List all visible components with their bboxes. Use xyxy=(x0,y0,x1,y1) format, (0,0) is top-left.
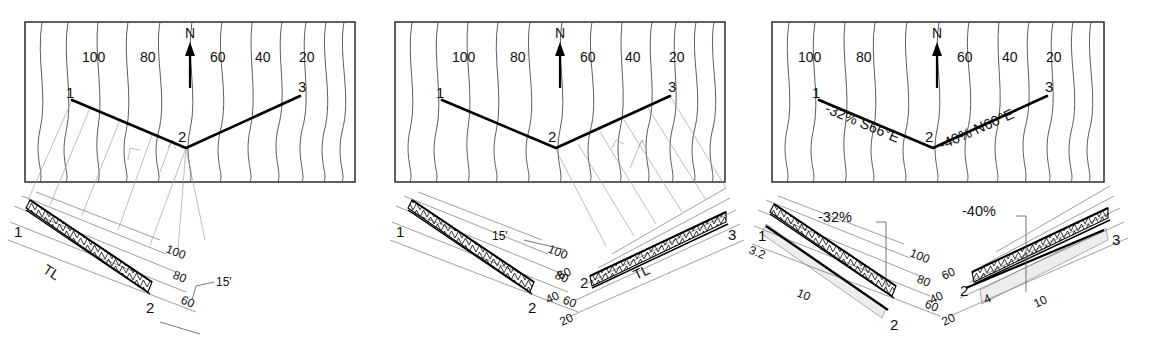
contour-label-20-a: 20 xyxy=(299,49,315,65)
map-point-1-a: 1 xyxy=(66,84,74,101)
rise-label-3a: 3.2 xyxy=(747,243,768,262)
map-point-2-c: 2 xyxy=(925,128,933,145)
panel-1-profile: 1 2 TL 100 80 60 15' xyxy=(8,192,232,334)
map-point-1-c: 1 xyxy=(812,84,820,101)
map-point-3-b: 3 xyxy=(668,78,676,95)
map-point-2-a: 2 xyxy=(178,128,186,145)
map-point-1-b: 1 xyxy=(436,84,444,101)
run-label-3a: 10 xyxy=(795,286,813,304)
dimension-label-15ft-1: 15' xyxy=(216,275,232,289)
drawing-canvas: N 1 2 3 100 80 60 40 20 xyxy=(0,0,1158,343)
contour-set-2 xyxy=(408,22,716,182)
north-label-2: N xyxy=(555,25,565,41)
profile-elev-80-a: 80 xyxy=(171,268,189,286)
earth-band-2a xyxy=(408,200,534,292)
contour-label-100-b: 100 xyxy=(452,49,476,65)
grade-annotation-leg1: -32% S66°E xyxy=(823,100,902,146)
earth-band-1 xyxy=(26,200,152,292)
grade-label-3a: -32% xyxy=(818,209,852,225)
profile-elev-40-b: 40 xyxy=(543,288,561,306)
contour-label-40-a: 40 xyxy=(255,49,271,65)
map-point-3-c: 3 xyxy=(1045,78,1053,95)
profile-point-3-b: 3 xyxy=(728,226,736,243)
panel-3-map: N 1 2 3 -32% S66°E -40% N60°E 100 80 60 … xyxy=(772,22,1104,182)
profile-elev-100-b: 100 xyxy=(546,242,570,263)
panel-1-map: N 1 2 3 100 80 60 40 20 xyxy=(25,22,355,250)
contour-label-40-b: 40 xyxy=(625,49,641,65)
contour-label-80-a: 80 xyxy=(140,49,156,65)
north-arrow-2: N xyxy=(555,25,565,88)
contour-label-20-c: 20 xyxy=(1046,49,1062,65)
figure-root: N 1 2 3 100 80 60 40 20 xyxy=(0,0,1158,343)
profile-point-2-a: 2 xyxy=(146,299,154,316)
true-length-label-1: TL xyxy=(40,261,63,283)
contour-label-80-b: 80 xyxy=(510,49,526,65)
panel-3-profile-left: 1 2 3.2 10 -32% 100 80 60 xyxy=(747,196,941,333)
contour-set-1 xyxy=(38,22,346,182)
profile-elev-60-b: 60 xyxy=(561,293,579,311)
profile-elev-20-b: 20 xyxy=(557,310,575,328)
contour-label-60-c: 60 xyxy=(957,49,973,65)
profile-point-2-b: 2 xyxy=(528,299,536,316)
dimension-label-15ft-2: 15' xyxy=(492,229,508,243)
contour-label-20-b: 20 xyxy=(669,49,685,65)
grade-line-3b xyxy=(974,220,1110,284)
profile-point-1-c: 1 xyxy=(758,227,766,244)
profile-point-3-c: 3 xyxy=(1112,231,1120,248)
run-label-3b: 10 xyxy=(1031,292,1049,310)
earth-band-2b xyxy=(590,212,726,286)
grade-label-3b: -40% xyxy=(962,203,996,219)
contour-label-40-c: 40 xyxy=(1002,49,1018,65)
profile-elev-20-c: 20 xyxy=(939,310,957,328)
profile-point-1-a: 1 xyxy=(14,223,22,240)
profile-point-2-c: 2 xyxy=(580,274,588,291)
map-point-2-b: 2 xyxy=(548,128,556,145)
ground-line-2b xyxy=(590,212,726,276)
contour-label-100-c: 100 xyxy=(798,49,822,65)
north-arrow-1: N xyxy=(185,25,195,88)
run-line-3b xyxy=(966,230,1104,288)
contour-label-60-b: 60 xyxy=(580,49,596,65)
profile-elev-60-e: 60 xyxy=(939,264,957,282)
profile-point-2-e: 2 xyxy=(960,282,968,299)
profile-elev-80-c: 80 xyxy=(915,272,933,290)
north-label-1: N xyxy=(185,25,195,41)
contour-label-80-c: 80 xyxy=(856,49,872,65)
profile-point-1-b: 1 xyxy=(396,223,404,240)
panel-3-profile-right: -40% 2 3 60 40 20 4 10 xyxy=(927,186,1128,329)
profile-elev-60-a: 60 xyxy=(179,293,197,311)
profile-elev-100-a: 100 xyxy=(164,242,188,263)
contour-label-60-a: 60 xyxy=(210,49,226,65)
profile-point-2-d: 2 xyxy=(890,316,898,333)
map-point-3-a: 3 xyxy=(298,78,306,95)
grade-annotation-leg2: -40% N60°E xyxy=(937,105,1017,152)
north-arrow-3: N xyxy=(932,25,942,88)
north-label-3: N xyxy=(932,25,942,41)
profile-elev-100-c: 100 xyxy=(908,246,932,267)
contour-label-100-a: 100 xyxy=(82,49,106,65)
